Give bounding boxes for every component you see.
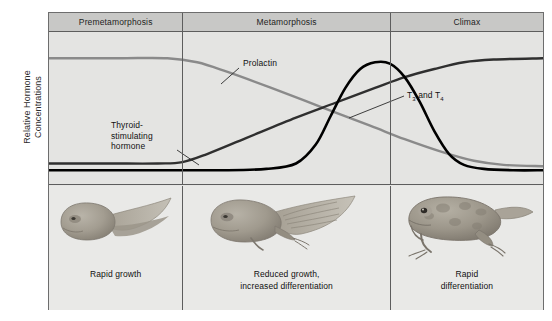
stage-caption-climax-line1: Rapid bbox=[441, 268, 493, 280]
stage-caption-climax-line2: differentiation bbox=[441, 280, 493, 292]
tsh-label-line2: stimulating bbox=[111, 131, 153, 142]
t3-t4-curve bbox=[49, 62, 543, 171]
froglet-illustration bbox=[391, 186, 543, 264]
phase-divider-1 bbox=[182, 32, 183, 184]
y-axis-title: Relative Hormone Concentrations bbox=[22, 22, 44, 192]
stage-caption-metamorphosis-line2: increased differentiation bbox=[240, 280, 333, 292]
y-axis-title-line1: Relative Hormone bbox=[22, 22, 33, 192]
tadpole-illustration bbox=[49, 186, 182, 264]
tsh-label-line3: hormone bbox=[111, 141, 153, 152]
phase-header-climax: Climax bbox=[390, 13, 543, 31]
tsh-label: Thyroid- stimulating hormone bbox=[111, 120, 153, 152]
stage-caption-premetamorphosis-line1: Rapid growth bbox=[90, 268, 141, 280]
limbed-tadpole-illustration bbox=[183, 186, 389, 264]
hormone-plot-area: Prolactin Thyroid- stimulating hormone T… bbox=[49, 32, 543, 185]
stage-caption-metamorphosis: Reduced growth, increased differentiatio… bbox=[240, 264, 333, 292]
phase-header-metamorphosis: Metamorphosis bbox=[182, 13, 389, 31]
prolactin-label: Prolactin bbox=[243, 58, 277, 69]
y-axis-title-line2: Concentrations bbox=[33, 22, 44, 192]
phase-divider-2 bbox=[390, 32, 391, 184]
stage-caption-premetamorphosis: Rapid growth bbox=[90, 264, 141, 280]
tsh-label-line1: Thyroid- bbox=[111, 120, 153, 131]
t3-t4-label-mid: and T bbox=[416, 90, 441, 100]
figure-amphibian-metamorphosis-hormones: Relative Hormone Concentrations Premetam… bbox=[0, 0, 552, 321]
phase-header-premetamorphosis: Premetamorphosis bbox=[49, 13, 182, 31]
t3-t4-label: T3 and T4 bbox=[407, 90, 444, 104]
life-stage-metamorphosis: Reduced growth, increased differentiatio… bbox=[182, 186, 389, 310]
chart-frame: Premetamorphosis Metamorphosis Climax Pr… bbox=[48, 12, 544, 310]
stage-caption-metamorphosis-line1: Reduced growth, bbox=[240, 268, 333, 280]
t3t4-leader-line bbox=[349, 96, 404, 118]
t3-t4-label-sub2: 4 bbox=[440, 96, 443, 102]
hormone-curves-svg bbox=[49, 32, 543, 185]
life-stage-strip: Rapid growth bbox=[49, 186, 543, 310]
stage-caption-climax: Rapid differentiation bbox=[441, 264, 493, 292]
phase-header-bar: Premetamorphosis Metamorphosis Climax bbox=[49, 13, 543, 32]
life-stage-climax: Rapid differentiation bbox=[390, 186, 543, 310]
life-stage-premetamorphosis: Rapid growth bbox=[49, 186, 182, 310]
